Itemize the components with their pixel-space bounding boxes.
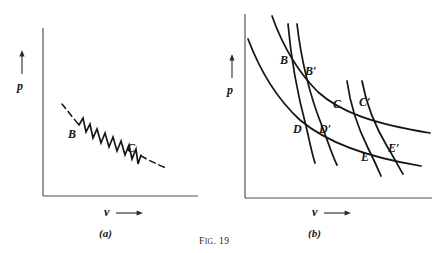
panel-b-x-arrow-icon — [324, 210, 351, 215]
panel-a-y-axis-label: p — [17, 80, 23, 92]
panel-b-point-C: C — [333, 98, 341, 110]
figure-19-root: p v (a) B C p v (b) B B′ C C′ D D′ E E′ … — [0, 0, 435, 253]
panel-b-point-B: B — [280, 54, 288, 66]
panel-b-point-E-prime: E′ — [388, 142, 399, 154]
figure-canvas — [0, 0, 435, 253]
panel-b-x-axis-label: v — [312, 206, 317, 218]
panel-a-dashed-upper — [62, 104, 79, 125]
panel-b-point-D-prime: D′ — [319, 123, 331, 135]
figure-caption: FIG. 19 — [199, 236, 229, 246]
panel-b-y-arrow-icon — [229, 54, 234, 78]
panel-a-y-arrow-icon — [19, 50, 24, 74]
panel-b-point-D: D — [293, 123, 302, 135]
panel-a-x-arrow-icon — [116, 210, 143, 215]
panel-a-point-B: B — [68, 128, 76, 140]
panel-a-x-axis-label: v — [104, 206, 109, 218]
panel-b-point-E: E — [361, 151, 369, 163]
figure-caption-rest: . 19 — [214, 236, 230, 246]
panel-a-axes — [43, 28, 198, 196]
panel-b-adiabat-2 — [297, 24, 337, 165]
panel-b-point-C-prime: C′ — [359, 96, 370, 108]
figure-caption-smallcaps: IG — [205, 237, 214, 246]
panel-a-point-C: C — [127, 142, 135, 154]
panel-b-y-axis-label: p — [227, 84, 233, 96]
panel-a-dashed-lower — [141, 156, 166, 168]
panel-b-name: (b) — [308, 228, 321, 239]
panel-b-point-B-prime: B′ — [305, 65, 316, 77]
panel-a-name: (a) — [99, 228, 112, 239]
